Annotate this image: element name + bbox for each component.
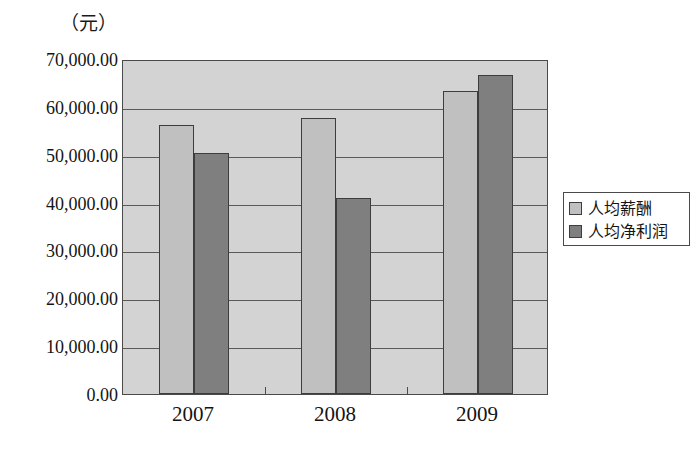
chart-legend: 人均薪酬 人均净利润	[563, 192, 690, 246]
y-axis-tick-label: 20,000.00	[6, 289, 118, 310]
legend-item-label: 人均薪酬	[588, 201, 652, 217]
bar-2007-series2	[194, 153, 229, 394]
y-axis-unit-label: （元）	[60, 8, 117, 35]
bar-2008-series2	[336, 198, 371, 394]
light-gray-swatch-icon	[569, 202, 582, 215]
y-axis-tick-label: 0.00	[6, 385, 118, 406]
y-axis-tick-label: 40,000.00	[6, 193, 118, 214]
bar-2009-series2	[478, 75, 513, 394]
x-axis-tick-label: 2007	[172, 402, 214, 427]
chart-figure: （元） 0.0010,000.0020,000.0030,000.0040,00…	[0, 0, 695, 453]
y-axis-tick-label: 50,000.00	[6, 145, 118, 166]
plot-area	[122, 60, 548, 395]
x-axis-tick-label: 2009	[456, 402, 498, 427]
x-axis-tick-label: 2008	[314, 402, 356, 427]
y-axis-tick-label: 10,000.00	[6, 337, 118, 358]
y-axis-tick-label: 70,000.00	[6, 50, 118, 71]
y-axis-tick-label: 30,000.00	[6, 241, 118, 262]
y-axis-tick-label: 60,000.00	[6, 97, 118, 118]
x-axis-tick-mark	[407, 387, 408, 394]
bar-2007-series1	[159, 125, 194, 394]
bar-2008-series1	[301, 118, 336, 394]
x-axis-tick-labels: 200720082009	[122, 402, 548, 442]
legend-item-label: 人均净利润	[588, 224, 668, 240]
dark-gray-swatch-icon	[569, 225, 582, 238]
y-axis-tick-labels: 0.0010,000.0020,000.0030,000.0040,000.00…	[0, 60, 118, 395]
legend-item[interactable]: 人均净利润	[569, 220, 684, 243]
x-axis-tick-mark	[265, 387, 266, 394]
bar-2009-series1	[443, 91, 478, 394]
legend-item[interactable]: 人均薪酬	[569, 197, 684, 220]
